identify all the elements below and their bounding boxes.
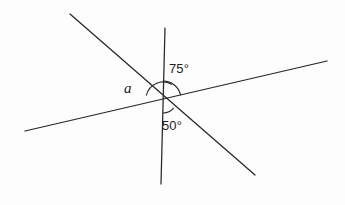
angle-label-75: 75° [169,62,189,75]
diagram-canvas [0,0,345,205]
vertical-line [161,28,165,184]
angle-label-50: 50° [162,119,182,132]
arc-angle-50 [163,108,173,113]
geometry-figure: 75° 50° a [0,0,345,205]
diagonal-line-steep [70,14,255,175]
angle-label-a: a [124,81,132,96]
arc-angle-75 [163,81,180,95]
